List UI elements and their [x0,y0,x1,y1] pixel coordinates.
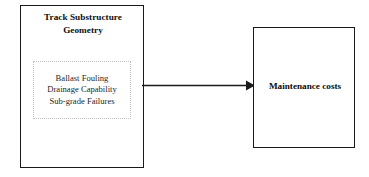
node-maintenance-costs: Maintenance costs [253,27,355,148]
node-title-track-substructure-geometry: Track Substructure Geometry [21,11,145,36]
node-title-line-1: Track Substructure [21,11,145,24]
list-item: Drainage Capability [47,84,116,96]
node-title-line-2: Geometry [21,24,145,37]
arrow-substructure-to-maintenance [142,76,256,96]
node-label-maintenance-costs: Maintenance costs [254,80,356,92]
list-item: Sub-grade Failures [49,96,114,108]
node-track-substructure-geometry: Track Substructure Geometry Ballast Foul… [20,5,144,168]
node-substructure-factors: Ballast Fouling Drainage Capability Sub-… [33,61,131,119]
list-item: Ballast Fouling [56,73,109,85]
diagram-canvas: Track Substructure Geometry Ballast Foul… [0,0,369,177]
